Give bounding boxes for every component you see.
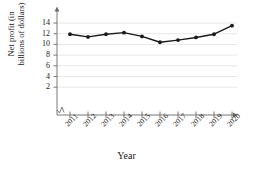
data-point-2020 [230,24,234,28]
x-axis-title: Year [0,150,253,161]
data-point-2015 [140,34,144,38]
y-axis-title-line1: Net profit (in [6,3,16,66]
gridlines [57,23,237,87]
data-point-2016 [158,40,162,44]
y-axis-title-text: Net profit (in billions of dollars) [6,3,26,66]
data-point-2018 [194,36,198,40]
data-point-2019 [212,32,216,36]
data-point-2012 [86,35,90,39]
y-tick-label-14: 14 [36,18,50,27]
axis-break-icon [57,107,64,113]
line-chart: Net profit (in billions of dollars) Year… [0,0,253,172]
y-tick-label-4: 4 [36,72,50,81]
y-tick-label-10: 10 [36,39,50,48]
y-tick-label-12: 12 [36,29,50,38]
y-tick-label-6: 6 [36,61,50,70]
y-axis-title-line2: billions of dollars) [16,3,26,66]
y-axis-arrow-icon [55,7,60,12]
y-tick-label-8: 8 [36,50,50,59]
data-point-2011 [68,32,72,36]
data-point-2013 [104,32,108,36]
y-tick-label-2: 2 [36,82,50,91]
data-point-2017 [176,38,180,42]
y-axis-title: Net profit (in billions of dollars) [0,0,32,82]
data-point-2014 [122,31,126,35]
